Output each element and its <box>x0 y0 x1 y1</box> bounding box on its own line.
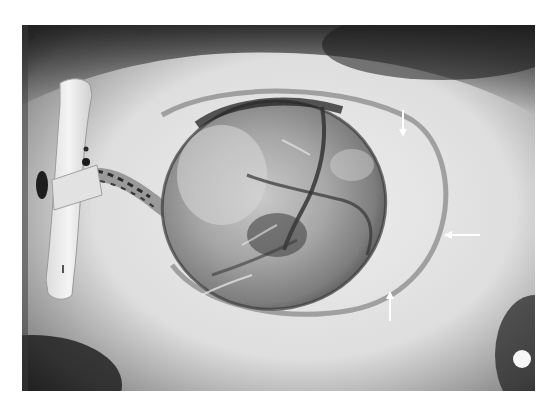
specimen-photo: a <box>22 25 535 391</box>
specimen-illustration <box>22 25 535 391</box>
panel-label: a <box>30 33 34 40</box>
